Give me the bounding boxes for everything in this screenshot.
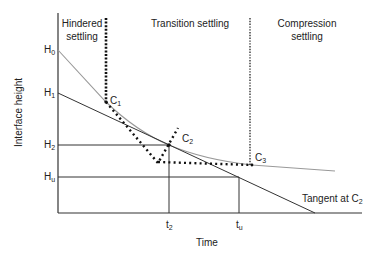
point-sub: 1 — [117, 100, 121, 107]
tick-sub: 0 — [51, 49, 55, 56]
region-line: Hindered — [60, 18, 104, 29]
region-label-compression: Compression settling — [272, 18, 342, 42]
tick-sub: 2 — [51, 144, 55, 151]
region-line: Compression — [272, 18, 342, 29]
region-line: settling — [272, 31, 342, 42]
point-sub: 2 — [189, 138, 193, 145]
c1-point — [104, 100, 107, 103]
region-line: settling — [60, 31, 104, 42]
label-c2: C2 — [182, 133, 193, 144]
region-label-transition: Transition settling — [140, 18, 240, 29]
tick-t2: t2 — [166, 219, 173, 230]
tangent-text: Tangent at C — [302, 193, 359, 204]
tick-hu: Hu — [44, 171, 55, 182]
tick-tu: tu — [236, 219, 243, 230]
tick-h0: H0 — [44, 44, 55, 55]
x-axis-label: Time — [196, 237, 218, 248]
label-c3: C3 — [255, 152, 266, 163]
y-axis-label: Interface height — [13, 73, 24, 153]
tick-sub: 1 — [51, 92, 55, 99]
tick-sub: u — [51, 176, 55, 183]
region-label-hindered: Hindered settling — [60, 18, 104, 42]
construction-dotted-horizontal — [158, 162, 252, 165]
point-sub: 3 — [262, 157, 266, 164]
c3-point — [251, 164, 254, 167]
tangent-sub: 2 — [359, 198, 363, 205]
tangent-label: Tangent at C2 — [302, 193, 363, 204]
c2-point — [167, 143, 171, 147]
tangent-line — [58, 93, 315, 213]
tick-sub: 2 — [169, 224, 173, 231]
label-c1: C1 — [110, 95, 121, 106]
tick-h2: H2 — [44, 139, 55, 150]
tick-h1: H1 — [44, 87, 55, 98]
region-line: Transition settling — [140, 18, 240, 29]
settling-curve — [58, 50, 335, 171]
tick-sub: u — [239, 224, 243, 231]
